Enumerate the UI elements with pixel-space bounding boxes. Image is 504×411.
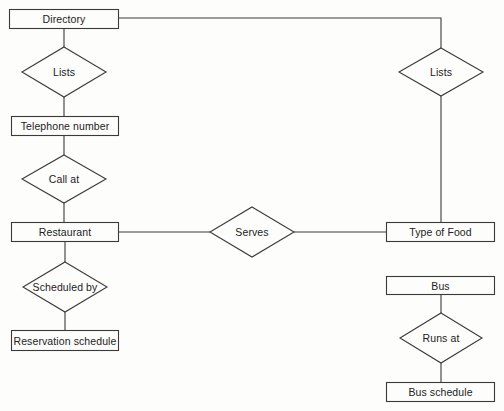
relationship-label-lists-right: Lists — [399, 62, 483, 82]
relationship-label-callat: Call at — [22, 169, 106, 189]
entity-label-typeoffood: Type of Food — [386, 222, 495, 242]
entity-label-telephone: Telephone number — [11, 116, 119, 136]
entity-label-reservation: Reservation schedule — [11, 330, 119, 351]
entity-label-bus: Bus — [386, 276, 495, 295]
connectors-layer — [64, 18, 441, 382]
er-diagram-canvas: DirectoryTelephone numberRestaurantReser… — [0, 0, 504, 411]
entity-label-restaurant: Restaurant — [11, 222, 119, 242]
relationship-label-scheduledby: Scheduled by — [23, 277, 107, 297]
relationship-label-runsat: Runs at — [400, 328, 482, 348]
connector-directory-to-lists-right — [118, 18, 441, 48]
relationship-label-serves: Serves — [210, 222, 294, 242]
relationship-label-lists-left: Lists — [22, 62, 106, 82]
entity-label-directory: Directory — [9, 9, 119, 29]
entity-label-busschedule: Bus schedule — [386, 382, 495, 402]
